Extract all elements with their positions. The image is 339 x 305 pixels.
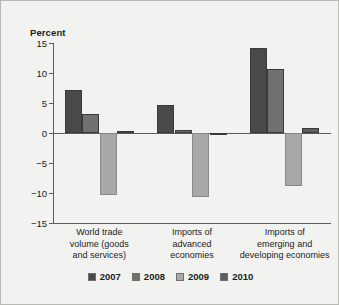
bar [192, 133, 209, 197]
chart-figure: Percent 151050−5−10−15 World trade volum… [0, 0, 339, 305]
y-tick-label: −15 [31, 218, 47, 229]
bar [250, 48, 267, 133]
y-tick-mark [49, 193, 53, 194]
category-label: Imports of emerging and developing econo… [238, 227, 331, 262]
legend-item[interactable]: 2010 [220, 271, 253, 282]
legend-label: 2009 [188, 271, 209, 282]
legend-item[interactable]: 2008 [132, 271, 165, 282]
legend-item[interactable]: 2009 [176, 271, 209, 282]
y-tick-mark [49, 163, 53, 164]
category-label: Imports of advanced economies [146, 227, 239, 262]
y-tick-label: 15 [36, 38, 47, 49]
bar [65, 90, 82, 133]
bar [285, 133, 302, 186]
plot-area: 151050−5−10−15 [53, 43, 331, 223]
y-tick-mark [49, 133, 53, 134]
y-tick-label: −5 [36, 158, 47, 169]
bar [82, 114, 99, 133]
y-axis-unit-label: Percent [30, 27, 66, 38]
bar [157, 105, 174, 133]
y-tick-mark [49, 73, 53, 74]
y-tick-label: 10 [36, 68, 47, 79]
y-tick-mark [49, 223, 53, 224]
legend-swatch-icon [176, 273, 184, 281]
y-tick-mark [49, 43, 53, 44]
bar [175, 130, 192, 133]
legend-label: 2010 [232, 271, 253, 282]
bottom-axis-line [53, 223, 331, 224]
legend-swatch-icon [88, 273, 96, 281]
y-tick-label: 5 [42, 98, 47, 109]
y-tick-label: 0 [42, 128, 47, 139]
bar [117, 131, 134, 133]
category-label: World trade volume (goods and services) [53, 227, 146, 262]
legend-label: 2008 [144, 271, 165, 282]
legend-swatch-icon [220, 273, 228, 281]
bar [302, 128, 319, 133]
chart-legend: 2007200820092010 [1, 271, 339, 282]
bar [100, 133, 117, 195]
legend-swatch-icon [132, 273, 140, 281]
legend-item[interactable]: 2007 [88, 271, 121, 282]
y-tick-label: −10 [31, 188, 47, 199]
bar [210, 133, 227, 135]
bar [267, 69, 284, 133]
category-labels: World trade volume (goods and services)I… [53, 227, 331, 262]
y-tick-mark [49, 103, 53, 104]
legend-label: 2007 [100, 271, 121, 282]
